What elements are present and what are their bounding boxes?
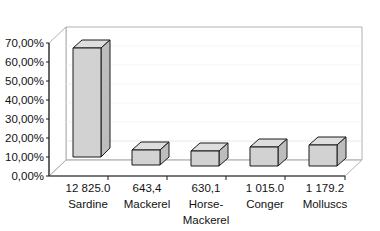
x-value-label: 1 015.0: [246, 182, 284, 194]
bar-molluscs[interactable]: [309, 137, 346, 166]
x-category-label-molluscs: Molluscs: [303, 198, 348, 210]
y-tick-label: 60,00%: [5, 56, 44, 68]
y-tick-label: 70,00%: [5, 37, 44, 49]
x-category-label-sardine: Sardine: [68, 198, 108, 210]
x-category-label-mackerel: Mackerel: [124, 198, 171, 210]
bar-sardine[interactable]: [73, 40, 110, 157]
bar-mackerel[interactable]: [132, 142, 169, 165]
y-tick-label: 50,00%: [5, 75, 44, 87]
x-value-label: 630,1: [192, 182, 221, 194]
y-tick-label: 40,00%: [5, 94, 44, 106]
plot-left-wall: [49, 27, 66, 176]
bar-conger[interactable]: [250, 139, 287, 166]
bar-horse-mackerel[interactable]: [191, 143, 228, 166]
x-value-label: 12 825.0: [66, 182, 111, 194]
y-tick-label: 10,00%: [5, 151, 44, 163]
x-category-label-conger: Conger: [246, 198, 284, 210]
x-category-label-horse-mackerel-line2: Mackerel: [183, 214, 230, 226]
bar-chart-3d: 70,00% 60,00% 50,00% 40,00% 30,00% 20,00…: [0, 0, 380, 231]
y-tick-label: 30,00%: [5, 113, 44, 125]
y-tick-label: 20,00%: [5, 132, 44, 144]
chart-container: 70,00% 60,00% 50,00% 40,00% 30,00% 20,00…: [0, 0, 380, 231]
x-value-label: 643,4: [133, 182, 162, 194]
y-tick-label: 0,00%: [11, 170, 44, 182]
x-category-label-horse-mackerel: Horse-: [189, 198, 224, 210]
x-value-label: 1 179.2: [306, 182, 344, 194]
